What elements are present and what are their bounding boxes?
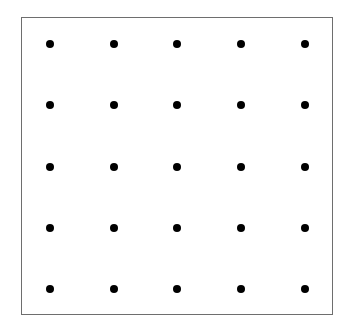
grid-dot-r3-c5	[301, 163, 309, 171]
grid-dot-r2-c2	[110, 101, 118, 109]
grid-dot-r2-c5	[301, 101, 309, 109]
grid-dot-r5-c3	[173, 285, 181, 293]
grid-dot-r3-c4	[237, 163, 245, 171]
grid-dot-r2-c1	[46, 101, 54, 109]
grid-dot-r1-c2	[110, 40, 118, 48]
grid-dot-r1-c5	[301, 40, 309, 48]
grid-dot-r5-c1	[46, 285, 54, 293]
grid-dot-r2-c4	[237, 101, 245, 109]
grid-dot-r1-c3	[173, 40, 181, 48]
grid-dot-r1-c1	[46, 40, 54, 48]
grid-dot-r4-c1	[46, 224, 54, 232]
grid-dot-r4-c3	[173, 224, 181, 232]
grid-dot-r3-c3	[173, 163, 181, 171]
grid-dot-r5-c2	[110, 285, 118, 293]
grid-dot-r4-c2	[110, 224, 118, 232]
grid-dot-r4-c4	[237, 224, 245, 232]
grid-dot-r3-c1	[46, 163, 54, 171]
grid-dot-r5-c4	[237, 285, 245, 293]
grid-dot-r4-c5	[301, 224, 309, 232]
grid-dot-r5-c5	[301, 285, 309, 293]
grid-dot-r2-c3	[173, 101, 181, 109]
grid-dot-r3-c2	[110, 163, 118, 171]
grid-dot-r1-c4	[237, 40, 245, 48]
